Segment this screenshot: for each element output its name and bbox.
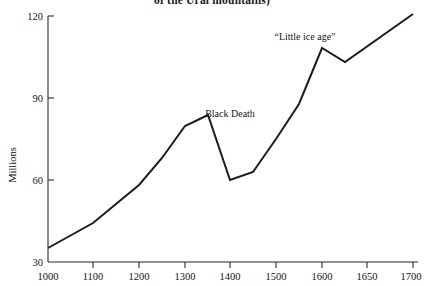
- y-tick-label-30: 30: [33, 257, 44, 268]
- x-tick-label-1400: 1400: [220, 271, 241, 282]
- y-tick-label-90: 90: [33, 93, 44, 104]
- y-tick-label-60: 60: [33, 175, 44, 186]
- chart-canvas: 120 90 60 30 Millions 1000 1100 1200 130…: [0, 0, 424, 286]
- y-axis-ticks: [48, 16, 54, 180]
- x-tick-label-1200: 1200: [129, 271, 150, 282]
- x-tick-label-1700: 1700: [401, 271, 422, 282]
- y-axis-title: Millions: [7, 147, 18, 183]
- x-tick-label-1100: 1100: [83, 271, 104, 282]
- chart-figure: of the Ural mountains) 120 90 60 30 Mill…: [0, 0, 424, 286]
- x-axis-ticks: [93, 262, 413, 268]
- x-tick-label-1600: 1600: [312, 271, 333, 282]
- annotation-little-ice-age: “Little ice age”: [274, 31, 335, 42]
- x-tick-label-1500: 1500: [266, 271, 287, 282]
- y-tick-label-120: 120: [27, 11, 43, 22]
- annotation-black-death: Black Death: [205, 108, 255, 119]
- x-tick-label-1300: 1300: [175, 271, 196, 282]
- x-tick-label-1000: 1000: [38, 271, 59, 282]
- x-tick-label-1650: 1650: [357, 271, 378, 282]
- population-line-series: [48, 14, 413, 248]
